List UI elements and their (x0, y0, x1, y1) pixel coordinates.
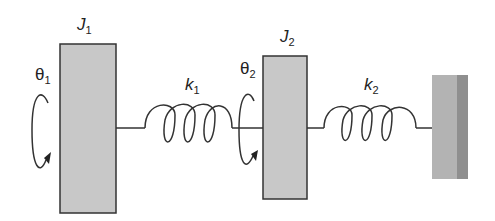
label-k1: k1 (185, 76, 200, 96)
wall-face (432, 75, 458, 179)
wall-edge (457, 75, 468, 179)
diagram-canvas: J1 J2 θ1 θ2 k1 k2 (0, 0, 495, 221)
label-theta2: θ2 (240, 60, 256, 80)
inertia-j2-block (263, 56, 307, 199)
spring-k1 (145, 104, 232, 142)
label-j1: J1 (77, 16, 92, 36)
label-theta1: θ1 (35, 66, 51, 86)
label-k2: k2 (364, 76, 379, 96)
spring-k2 (324, 106, 416, 141)
label-j2: J2 (280, 28, 295, 48)
mechanism-drawing (0, 0, 495, 221)
inertia-j1-block (60, 44, 116, 213)
